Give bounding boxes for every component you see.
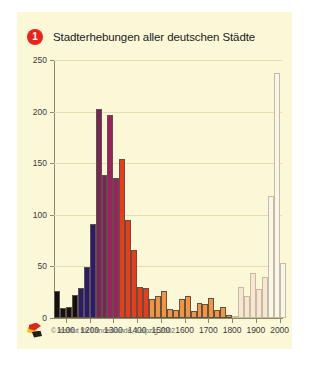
y-tick-label: 250 xyxy=(21,55,47,65)
histogram-bar xyxy=(280,263,286,318)
y-tick-label: 150 xyxy=(21,158,47,168)
plot-area xyxy=(54,60,282,318)
y-tick-label: 100 xyxy=(21,210,47,220)
institut-fuer-laenderkunde-logo-icon xyxy=(27,323,44,338)
figure-number-badge: 1 xyxy=(27,29,43,45)
chart-footer: © Institut für Länderkunde, Leipzig 2002 xyxy=(17,319,292,341)
chart-title: Stadterhebungen aller deutschen Städte xyxy=(53,31,255,43)
copyright-text: © Institut für Länderkunde, Leipzig 2002 xyxy=(51,327,175,334)
chart-figure: 1 Stadterhebungen aller deutschen Städte… xyxy=(17,12,292,349)
y-tick-label: 50 xyxy=(21,261,47,271)
chart-header: 1 Stadterhebungen aller deutschen Städte xyxy=(17,24,292,50)
y-tick-label: 200 xyxy=(21,107,47,117)
